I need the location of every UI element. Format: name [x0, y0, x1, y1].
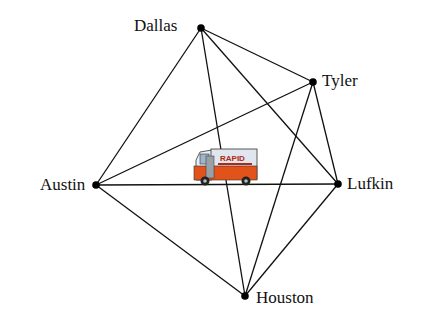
truck-label: RAPID	[220, 154, 245, 163]
node-label-houston: Houston	[256, 289, 314, 306]
node-label-dallas: Dallas	[134, 17, 177, 34]
node-label-tyler: Tyler	[322, 72, 358, 89]
delivery-truck-icon: RAPID	[0, 0, 427, 331]
node-label-austin: Austin	[40, 176, 85, 193]
route-diagram: RAPID DallasTylerAustinLufkinHouston	[0, 0, 427, 331]
node-label-lufkin: Lufkin	[347, 175, 393, 192]
